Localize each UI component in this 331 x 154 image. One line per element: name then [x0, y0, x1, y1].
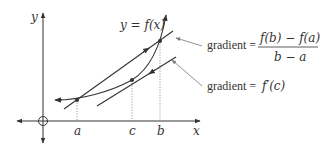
tangent-pointer: [172, 60, 202, 86]
y-axis-label: y: [30, 10, 38, 24]
x-axis-label: x: [193, 124, 200, 138]
label-c: c: [129, 124, 136, 138]
tangent-annotation: gradient = f′(c): [207, 79, 286, 93]
svg-text:f′(c): f′(c): [261, 79, 286, 93]
tangent-line: [97, 57, 176, 106]
point-a: [75, 98, 79, 102]
secant-annotation: gradient = f(b) − f(a) b − a: [207, 31, 320, 64]
label-b: b: [157, 124, 165, 138]
mvt-diagram: y x a c b y = f(x) gradient = f(b) − f(a…: [0, 0, 331, 154]
svg-text:gradient =: gradient =: [207, 38, 256, 52]
point-c: [130, 78, 134, 82]
label-a: a: [74, 124, 81, 138]
svg-text:b − a: b − a: [274, 50, 307, 64]
secant-line: [64, 31, 173, 109]
guide-lines: [77, 41, 160, 121]
svg-text:f(b) − f(a): f(b) − f(a): [259, 31, 320, 45]
svg-text:gradient =: gradient =: [207, 79, 256, 93]
point-b: [158, 39, 162, 43]
curve-label: y = f(x): [119, 18, 165, 32]
secant-pointer: [176, 38, 202, 46]
